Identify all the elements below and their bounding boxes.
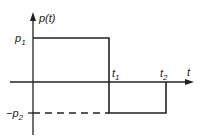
x-arrow-icon — [185, 79, 194, 85]
pulse-diagram: p(t) t p1 −p2 t1 t2 — [0, 0, 202, 138]
t1-label: t1 — [112, 67, 120, 82]
y-axis-label: p(t) — [38, 12, 56, 24]
pulse-waveform — [33, 38, 166, 113]
p1-label: p1 — [14, 32, 26, 47]
x-axis-label: t — [187, 66, 191, 78]
t2-label: t2 — [160, 67, 168, 82]
neg-p2-label: −p2 — [6, 107, 24, 122]
y-arrow-icon — [30, 12, 36, 21]
